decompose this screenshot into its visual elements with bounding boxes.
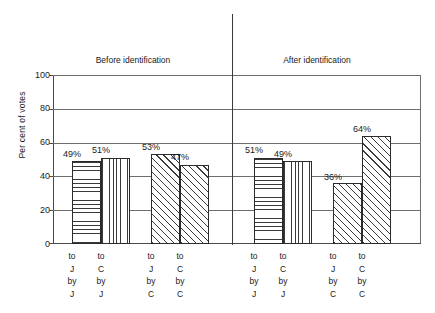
x-label-line-2: C — [268, 263, 298, 276]
x-label-line-2: C — [165, 263, 195, 276]
gridline-100 — [53, 75, 421, 76]
x-label-before-to-c-by-c: to C by C — [165, 250, 195, 300]
x-label-before-to-c-by-j: to C by J — [86, 250, 116, 300]
x-label-after-to-j-by-c: to J by C — [318, 250, 348, 300]
bar-before-to-c-by-j — [101, 158, 130, 244]
y-axis-line — [53, 75, 54, 244]
y-tickmark-40 — [49, 176, 53, 177]
bar-after-to-c-by-j — [283, 161, 312, 244]
y-tickmark-100 — [49, 75, 53, 76]
x-label-before-to-j-by-j: to J by J — [57, 250, 87, 300]
x-label-after-to-j-by-j: to J by J — [239, 250, 269, 300]
x-label-line-1: to — [347, 250, 377, 263]
x-label-line-4: C — [136, 288, 166, 301]
y-axis-tick-labels: 100 80 60 40 20 0 — [22, 0, 50, 313]
x-label-line-4: J — [268, 288, 298, 301]
x-label-line-1: to — [57, 250, 87, 263]
bar-value-after-to-j-by-c: 36% — [318, 172, 348, 182]
x-label-line-3: by — [268, 275, 298, 288]
x-label-line-3: by — [318, 275, 348, 288]
bar-before-to-j-by-j — [72, 161, 101, 244]
x-label-line-4: C — [347, 288, 377, 301]
x-label-line-4: C — [318, 288, 348, 301]
bar-value-before-to-c-by-c: 47% — [165, 152, 195, 162]
bar-value-before-to-j-by-j: 49% — [57, 149, 87, 159]
x-label-line-3: by — [165, 275, 195, 288]
y-tick-label-60: 60 — [24, 138, 50, 147]
gridline-80 — [53, 109, 421, 110]
bar-value-after-to-j-by-j: 51% — [239, 145, 269, 155]
x-label-line-1: to — [86, 250, 116, 263]
y-tickmark-0 — [49, 243, 53, 244]
bar-chart: Per cent of votes 100 80 60 40 20 0 — [0, 0, 435, 313]
x-label-line-3: by — [57, 275, 87, 288]
plot-area — [53, 75, 421, 244]
bar-value-after-to-c-by-j: 49% — [268, 149, 298, 159]
y-tickmark-20 — [49, 210, 53, 211]
x-label-line-2: C — [347, 263, 377, 276]
x-label-line-4: C — [165, 288, 195, 301]
x-label-line-2: C — [86, 263, 116, 276]
x-label-line-3: by — [86, 275, 116, 288]
panel-divider — [232, 14, 233, 245]
x-label-line-3: by — [239, 275, 269, 288]
bar-value-before-to-j-by-c: 53% — [136, 142, 166, 152]
x-label-after-to-c-by-c: to C by C — [347, 250, 377, 300]
plot-right-edge — [420, 75, 421, 244]
bar-before-to-c-by-c — [180, 165, 209, 244]
y-tickmark-60 — [49, 143, 53, 144]
x-label-before-to-j-by-c: to J by C — [136, 250, 166, 300]
x-label-line-2: J — [57, 263, 87, 276]
x-label-line-3: by — [347, 275, 377, 288]
bar-value-after-to-c-by-c: 64% — [347, 124, 377, 134]
bar-after-to-j-by-j — [254, 158, 283, 244]
y-tick-label-0: 0 — [24, 240, 50, 249]
panel-title-before: Before identification — [78, 55, 188, 65]
y-tickmark-80 — [49, 109, 53, 110]
bar-after-to-c-by-c — [362, 136, 391, 244]
panel-title-after: After identification — [262, 55, 372, 65]
x-label-line-1: to — [136, 250, 166, 263]
x-label-line-4: J — [57, 288, 87, 301]
y-tick-label-80: 80 — [24, 104, 50, 113]
x-label-line-2: J — [239, 263, 269, 276]
x-label-line-2: J — [136, 263, 166, 276]
x-label-line-4: J — [86, 288, 116, 301]
bar-after-to-j-by-c — [333, 183, 362, 244]
bar-before-to-j-by-c — [151, 154, 180, 244]
x-label-line-3: by — [136, 275, 166, 288]
bar-value-before-to-c-by-j: 51% — [86, 145, 116, 155]
x-label-line-4: J — [239, 288, 269, 301]
x-label-line-1: to — [268, 250, 298, 263]
x-label-line-1: to — [318, 250, 348, 263]
y-tick-label-20: 20 — [24, 206, 50, 215]
x-label-line-1: to — [165, 250, 195, 263]
x-label-line-1: to — [239, 250, 269, 263]
y-tick-label-40: 40 — [24, 172, 50, 181]
x-label-after-to-c-by-j: to C by J — [268, 250, 298, 300]
x-label-line-2: J — [318, 263, 348, 276]
y-tick-label-100: 100 — [24, 71, 50, 80]
